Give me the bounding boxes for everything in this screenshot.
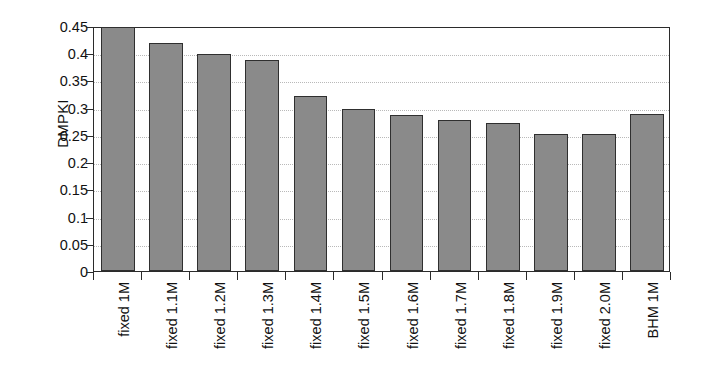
y-axis-tick-label: 0.3 [38,101,88,116]
x-axis-tick-label: fixed 1.3M [261,282,276,349]
x-label-slot: fixed 1.2M [189,272,237,386]
x-axis-tick-mark [526,272,527,280]
x-axis-tick-mark [141,272,142,280]
x-axis-tick-mark [622,272,623,280]
x-axis-tick-mark [93,272,94,280]
x-axis-tick-labels: fixed 1Mfixed 1.1Mfixed 1.2Mfixed 1.3Mfi… [93,272,670,386]
x-axis-tick-mark [189,272,190,280]
x-axis-tick-label: fixed 1.4M [309,282,324,349]
bar[interactable] [534,134,568,271]
bar-slot [286,28,334,271]
bar-slot [142,28,190,271]
x-label-slot: fixed 1.1M [141,272,189,386]
x-axis-tick-label: fixed 1.2M [213,282,228,349]
y-axis-tick-label: 0 [38,265,88,280]
x-label-slot: BHM 1M [622,272,670,386]
y-axis-tick-label: 0.45 [38,20,88,35]
bar[interactable] [342,109,376,271]
bar-slot [479,28,527,271]
x-label-slot: fixed 2.0M [574,272,622,386]
bar-slot [334,28,382,271]
y-axis-tick-label: 0.05 [38,238,88,253]
bar[interactable] [245,60,279,271]
x-label-slot: fixed 1.8M [478,272,526,386]
bar-chart: DMPKI 0.450.40.350.30.250.20.150.10.050 … [0,0,706,386]
x-label-slot: fixed 1M [93,272,141,386]
bar[interactable] [438,120,472,271]
x-axis-tick-label: fixed 1.9M [550,282,565,349]
x-axis-tick-label: fixed 1.5M [357,282,372,349]
bars-group [94,28,669,271]
bar-slot [383,28,431,271]
x-axis-tick-mark [574,272,575,280]
x-label-slot: fixed 1.6M [382,272,430,386]
x-axis-tick-mark [430,272,431,280]
bar-slot [238,28,286,271]
y-axis-tick-mark [86,81,93,82]
x-axis-tick-mark [333,272,334,280]
bar-slot [190,28,238,271]
x-label-slot: fixed 1.3M [237,272,285,386]
bar-slot [527,28,575,271]
bar-slot [94,28,142,271]
bar[interactable] [101,27,135,271]
bar[interactable] [582,134,616,271]
x-label-slot: fixed 1.7M [430,272,478,386]
x-axis-tick-mark [670,272,671,280]
bar-slot [431,28,479,271]
bar[interactable] [197,54,231,271]
y-axis-tick-mark [86,27,93,28]
plot-area [93,27,670,272]
x-axis-tick-label: fixed 1.8M [502,282,517,349]
y-axis-tick-label: 0.1 [38,210,88,225]
x-label-slot: fixed 1.4M [285,272,333,386]
y-axis-tick-mark [86,163,93,164]
bar[interactable] [630,114,664,271]
x-axis-tick-mark [237,272,238,280]
y-axis-tick-mark [86,136,93,137]
bar[interactable] [294,96,328,271]
y-axis-tick-mark [86,109,93,110]
x-axis-tick-label: fixed 1M [117,282,132,337]
bar[interactable] [486,123,520,271]
y-axis-tick-mark [86,190,93,191]
bar[interactable] [390,115,424,271]
y-axis-tick-mark [86,245,93,246]
y-axis-tick-labels: 0.450.40.350.30.250.20.150.10.050 [38,27,88,272]
x-axis-tick-label: BHM 1M [646,282,661,338]
y-axis-tick-mark [86,272,93,273]
y-axis-tick-mark [86,218,93,219]
bar[interactable] [149,43,183,271]
x-axis-tick-label: fixed 2.0M [598,282,613,349]
x-axis-tick-label: fixed 1.1M [165,282,180,349]
x-axis-tick-mark [382,272,383,280]
y-axis-tick-mark [86,54,93,55]
x-label-slot: fixed 1.5M [333,272,381,386]
y-axis-tick-label: 0.15 [38,183,88,198]
y-axis-tick-label: 0.4 [38,47,88,62]
bar-slot [575,28,623,271]
x-axis-tick-label: fixed 1.6M [406,282,421,349]
y-axis-tick-label: 0.2 [38,156,88,171]
x-label-slot: fixed 1.9M [526,272,574,386]
x-axis-tick-label: fixed 1.7M [454,282,469,349]
x-axis-tick-mark [285,272,286,280]
y-axis-tick-label: 0.25 [38,129,88,144]
x-axis-tick-mark [478,272,479,280]
y-axis-tick-label: 0.35 [38,74,88,89]
bar-slot [623,28,671,271]
